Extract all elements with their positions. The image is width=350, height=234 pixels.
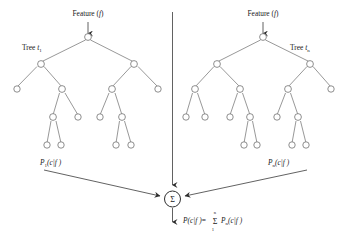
tree-leaf — [202, 114, 208, 120]
formula-rhs: Pn(c|f ) — [220, 216, 243, 226]
tree-leaf — [183, 114, 189, 120]
tree-label-right: Tree tn — [290, 43, 310, 53]
tree-leaf — [58, 142, 64, 148]
tree-node — [97, 114, 103, 120]
tree-node — [131, 61, 138, 68]
tree-leaf — [241, 142, 247, 148]
tree-leaf — [303, 142, 309, 148]
tree-right-nodes — [183, 34, 334, 149]
formula-sigma-upper: n — [214, 210, 217, 215]
tree-left-edges — [17, 40, 158, 143]
formula-sigma-lower: 1 — [212, 227, 215, 232]
tree-node — [14, 86, 20, 92]
tree-node — [247, 114, 254, 121]
tree-node — [119, 114, 126, 121]
tree-leaf — [44, 142, 50, 148]
feature-label-left: Feature (f) — [72, 9, 104, 18]
tree-leaf — [254, 142, 260, 148]
tree-node — [38, 61, 45, 68]
tree-node — [295, 114, 302, 121]
tree-node — [285, 86, 292, 93]
tree-node-root-left — [85, 34, 92, 41]
tree-node — [59, 86, 66, 93]
tree-right-edges — [186, 40, 331, 143]
final-formula: P(c|f )= n Σ 1 Pn(c|f ) — [182, 210, 243, 232]
tree-label-left: Tree t1 — [22, 43, 42, 53]
sum-symbol: Σ — [170, 195, 175, 204]
tree-leaf — [274, 114, 280, 120]
tree-node-root-right — [260, 34, 267, 41]
tree-node — [155, 86, 161, 92]
tree-leaf — [227, 114, 233, 120]
tree-node — [50, 114, 57, 121]
tree-leaf — [128, 142, 134, 148]
random-forest-figure: Σ Feature (f) Feature (f) Tree t1 Tree t… — [0, 0, 350, 234]
feature-label-right: Feature (f) — [247, 9, 279, 18]
tree-node — [192, 86, 199, 93]
tree-node — [237, 86, 244, 93]
tree-leaf — [289, 142, 295, 148]
tree-leaf — [113, 142, 119, 148]
prob-label-right: Pn(c|f ) — [267, 158, 290, 168]
output-arrow-right — [185, 170, 307, 196]
formula-sigma: Σ — [213, 217, 218, 226]
tree-node — [307, 61, 314, 68]
formula-lhs: P(c|f )= — [182, 216, 206, 225]
tree-node — [214, 61, 221, 68]
diagram-canvas: Σ Feature (f) Feature (f) Tree t1 Tree t… — [0, 0, 350, 234]
output-arrow-left — [44, 170, 160, 196]
tree-node — [109, 86, 116, 93]
prob-label-left: P1(c|f ) — [39, 158, 62, 168]
tree-node — [328, 86, 334, 92]
tree-node — [75, 114, 81, 120]
tree-right — [183, 22, 334, 196]
